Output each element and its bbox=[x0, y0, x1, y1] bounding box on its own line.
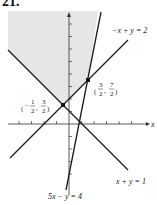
x-ticks bbox=[19, 121, 132, 124]
svg-text:2: 2 bbox=[110, 90, 114, 98]
svg-text:): ) bbox=[47, 105, 50, 113]
x-axis-arrow-icon bbox=[146, 122, 150, 126]
svg-text:): ) bbox=[115, 88, 118, 96]
svg-text:7: 7 bbox=[110, 81, 114, 89]
vertex-marker bbox=[86, 78, 90, 82]
graph: −x + y = 2 x + y = 1 5x − y = 4 x ( − 1 … bbox=[0, 0, 157, 205]
svg-text:,: , bbox=[36, 104, 38, 112]
label-line2: x + y = 1 bbox=[115, 177, 146, 186]
svg-text:(: ( bbox=[94, 88, 97, 96]
svg-text:3: 3 bbox=[42, 98, 46, 106]
svg-text:−: − bbox=[25, 102, 29, 110]
vertex-marker bbox=[61, 103, 65, 107]
svg-text:2: 2 bbox=[99, 90, 103, 98]
label-line1: −x + y = 2 bbox=[112, 26, 147, 35]
svg-text:1: 1 bbox=[31, 98, 35, 106]
vertex-label-2: ( 3 2 , 7 2 ) bbox=[94, 81, 118, 98]
label-line3: 5x − y = 4 bbox=[48, 192, 82, 201]
svg-text:2: 2 bbox=[31, 107, 35, 115]
svg-text:3: 3 bbox=[99, 81, 103, 89]
svg-text:,: , bbox=[104, 87, 106, 95]
svg-text:2: 2 bbox=[42, 107, 46, 115]
shaded-region bbox=[8, 11, 98, 105]
vertex-label-1: ( − 1 2 , 3 2 ) bbox=[21, 98, 50, 115]
svg-text:(: ( bbox=[21, 105, 24, 113]
label-x-axis: x bbox=[150, 120, 155, 129]
